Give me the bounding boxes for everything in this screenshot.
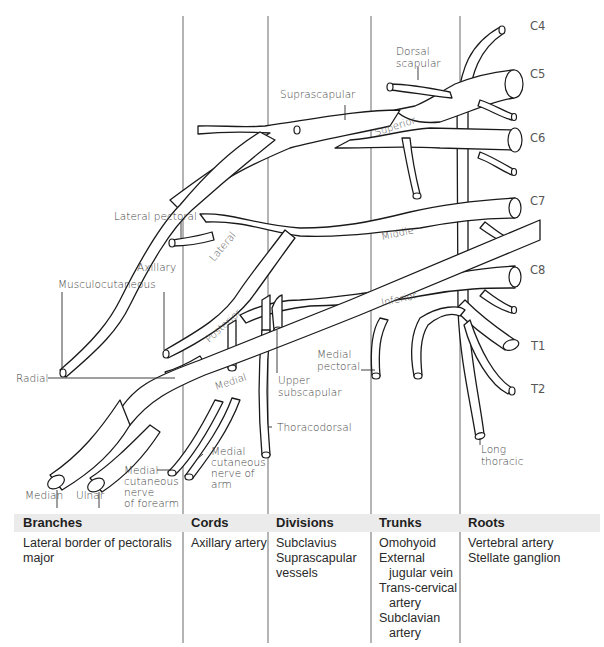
column-header-trunks: Trunks [379, 515, 422, 531]
label-c4: C4 [530, 19, 545, 33]
label-medial-pectoral: Medialpectoral [317, 348, 360, 372]
trunks-item: Omohyoid [379, 536, 457, 551]
column-branches: Lateral border of pectoralis major [23, 536, 181, 566]
label-c6: C6 [530, 131, 545, 145]
root-twig-c5 [478, 100, 515, 120]
label-medial-cutaneous-arm: Medialcutaneousnerve ofarm [211, 445, 266, 490]
cords-item: Axillary artery [191, 536, 267, 551]
medial-pectoral-nerve [371, 318, 388, 376]
label-t1: T1 [530, 339, 545, 353]
trunks-item: Trans-cervical [379, 581, 457, 596]
label-median: Median [25, 489, 63, 501]
upper-subscapular-nerve [272, 295, 282, 330]
divisions-item: Suprascapular [276, 551, 357, 566]
roots-item: Vertebral artery [468, 536, 560, 551]
label-c8: C8 [530, 263, 545, 277]
column-header-cords: Cords [191, 515, 229, 531]
branches-item: major [23, 551, 181, 566]
column-divisions: Subclavius Suprascapular vessels [276, 536, 357, 581]
divisions-item: Subclavius [276, 536, 357, 551]
label-medial-cord: Medial [213, 371, 248, 392]
column-cords: Axillary artery [191, 536, 267, 551]
divisions-item: vessels [276, 566, 357, 581]
label-thoracodorsal: Thoracodorsal [277, 421, 352, 433]
label-dorsal-scapular: Dorsalscapular [396, 45, 441, 69]
label-long-thoracic: Longthoracic [481, 443, 524, 467]
column-header-roots: Roots [468, 515, 505, 531]
column-header-divisions: Divisions [276, 515, 334, 531]
trunks-item: artery [379, 596, 457, 611]
lateral-pectoral-nerve [172, 232, 214, 246]
trunks-item: artery [379, 626, 457, 641]
column-roots: Vertebral artery Stellate ganglion [468, 536, 560, 566]
label-c7: C7 [530, 194, 545, 208]
label-upper-subscapular: Uppersubscapular [278, 374, 342, 398]
label-axillary: Axillary [137, 261, 176, 273]
root-twig-c8 [480, 290, 514, 313]
label-c5: C5 [530, 67, 545, 81]
column-header-branches: Branches [23, 515, 82, 531]
root-labels: C4 C5 C6 C7 C8 T1 T2 [530, 19, 545, 396]
dorsal-scapular-nerve [390, 84, 452, 98]
trunks-item: Subclavian [379, 611, 457, 626]
trunks-item: External [379, 551, 457, 566]
root-twig-c6 [478, 152, 515, 175]
roots-item: Stellate ganglion [468, 551, 560, 566]
branches-item: Lateral border of pectoralis [23, 536, 181, 551]
label-radial: Radial [16, 372, 48, 384]
label-musculocutaneous: Musculocutaneous [58, 278, 156, 290]
label-suprascapular: Suprascapular [280, 88, 356, 100]
column-trunks: Omohyoid External jugular vein Trans-cer… [379, 536, 457, 641]
label-t2: T2 [530, 382, 545, 396]
label-lateral-pectoral: Lateral pectoral [114, 210, 197, 222]
label-ulnar: Ulnar [76, 489, 105, 501]
trunks-item: jugular vein [379, 566, 457, 581]
inferior-loop-branch [412, 307, 465, 376]
